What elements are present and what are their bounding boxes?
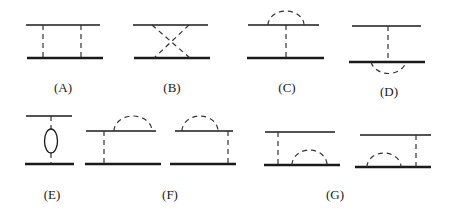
self-energy-loop [371,62,406,73]
self-energy-loop [367,153,401,167]
panel-c: (C) [247,11,324,95]
panel-b: (B) [133,25,210,95]
diagram-canvas: (A) (B) (C) (D) (E) [0,0,452,215]
panel-a: (A) [26,25,103,95]
panel-label: (E) [44,187,61,202]
self-energy-loop [292,150,327,165]
self-energy-loop [114,116,152,131]
self-energy-loop [268,11,304,25]
panel-label: (G) [326,187,344,202]
panel-f: (F) [85,116,236,202]
self-energy-loop [182,116,218,131]
panel-label: (C) [278,80,295,95]
panel-label: (A) [54,80,72,95]
panel-e: (E) [25,116,74,202]
panel-label: (D) [380,84,398,99]
panel-g: (G) [264,132,431,202]
panel-label: (B) [163,80,180,95]
panel-label: (F) [162,187,178,202]
crossed-exchange-line [152,25,190,58]
bubble-insertion [45,129,58,153]
panel-d: (D) [349,26,425,99]
crossed-exchange-line [154,25,189,58]
